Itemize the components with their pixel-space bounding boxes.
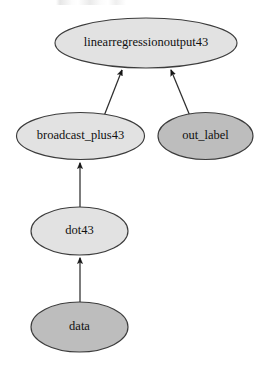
node-label-broadcast-plus43: broadcast_plus43 [37, 128, 124, 142]
edge-broadcast-plus43-to-linearregressionoutput43 [104, 70, 122, 116]
node-dot43[interactable]: dot43 [31, 207, 128, 255]
node-label-dot43: dot43 [65, 223, 93, 237]
node-label-out-label: out_label [182, 128, 229, 142]
computation-graph: linearregressionoutput43 broadcast_plus4… [0, 0, 268, 367]
node-broadcast-plus43[interactable]: broadcast_plus43 [17, 113, 145, 160]
node-layer: linearregressionoutput43 broadcast_plus4… [17, 18, 254, 352]
node-linearregressionoutput43[interactable]: linearregressionoutput43 [55, 18, 237, 68]
edge-out-label-to-linearregressionoutput43 [171, 70, 190, 116]
node-label-linearregressionoutput43: linearregressionoutput43 [84, 35, 208, 49]
edge-layer [80, 70, 190, 302]
node-out-label[interactable]: out_label [158, 113, 253, 160]
node-data[interactable]: data [31, 302, 128, 352]
node-label-data: data [69, 319, 90, 333]
